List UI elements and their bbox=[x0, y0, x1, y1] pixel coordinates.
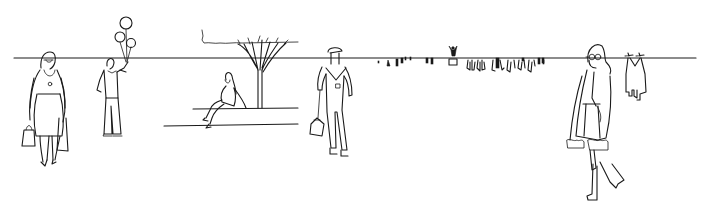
man-with-balloons bbox=[97, 17, 136, 136]
woman-with-handbag bbox=[22, 52, 68, 166]
seated-woman-on-ledge bbox=[164, 73, 298, 128]
distant-crowd bbox=[378, 46, 544, 72]
worker-with-toolbox bbox=[310, 48, 352, 156]
distant-couple bbox=[625, 53, 646, 100]
hedge-and-tree bbox=[202, 30, 298, 108]
line-drawing bbox=[0, 0, 713, 218]
ledge-bottom-line bbox=[164, 124, 298, 126]
illustration-scene bbox=[0, 0, 713, 218]
woman-in-fur-coat bbox=[567, 45, 624, 200]
